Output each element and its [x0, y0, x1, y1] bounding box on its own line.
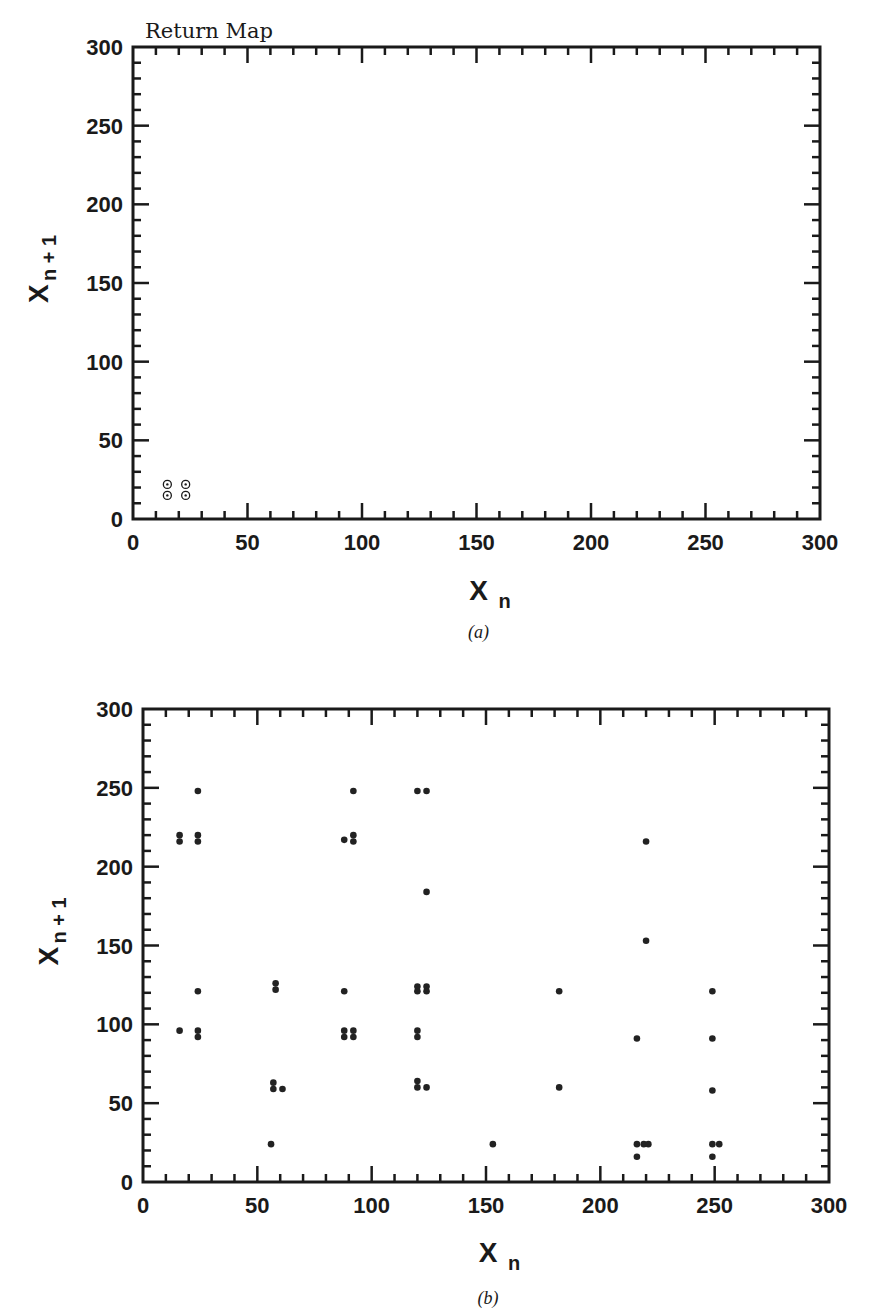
- y-tick-label: 0: [111, 507, 123, 532]
- x-axis-label-subscript: n: [508, 1252, 520, 1274]
- y-axis-label: Xn + 1: [33, 897, 70, 965]
- data-point: [423, 889, 430, 896]
- y-tick-label: 200: [96, 855, 133, 880]
- x-axis-label: X: [469, 575, 488, 606]
- plot-frame: [133, 47, 820, 519]
- x-tick-label: 0: [127, 530, 139, 555]
- data-point: [556, 988, 563, 995]
- x-tick-label: 0: [137, 1193, 149, 1218]
- data-point: [176, 838, 183, 845]
- data-point: [350, 788, 357, 795]
- y-tick-label: 300: [86, 35, 123, 60]
- data-point: [272, 980, 279, 987]
- data-point: [716, 1141, 723, 1148]
- x-tick-label: 100: [344, 530, 381, 555]
- y-tick-label: 50: [109, 1091, 133, 1116]
- y-tick-label: 50: [99, 428, 123, 453]
- y-tick-label: 100: [86, 350, 123, 375]
- x-tick-label: 50: [235, 530, 259, 555]
- data-point: [709, 1153, 716, 1160]
- y-tick-label: 300: [96, 697, 133, 722]
- data-point: [350, 838, 357, 845]
- data-point: [634, 1141, 641, 1148]
- data-point: [195, 1027, 202, 1034]
- data-point: [270, 1079, 277, 1086]
- data-point: [268, 1141, 275, 1148]
- figure-caption: (b): [478, 1288, 499, 1309]
- svg-text:n + 1: n + 1: [48, 897, 70, 943]
- data-point: [423, 988, 430, 995]
- data-point: [176, 832, 183, 839]
- data-points: [176, 788, 722, 1160]
- data-point: [709, 1087, 716, 1094]
- y-axis-label: Xn + 1: [23, 235, 60, 303]
- data-point: [350, 1034, 357, 1041]
- data-point: [341, 1027, 348, 1034]
- data-point: [709, 1141, 716, 1148]
- axis-ticks: [133, 47, 820, 519]
- data-point: [490, 1141, 497, 1148]
- svg-text:X: X: [33, 947, 64, 966]
- data-point: [176, 1027, 183, 1034]
- data-point: [272, 986, 279, 993]
- data-point: [350, 1027, 357, 1034]
- chart-title: Return Map: [145, 19, 273, 43]
- data-point: [195, 832, 202, 839]
- data-point: [643, 838, 650, 845]
- data-point: [709, 1035, 716, 1042]
- data-point: [414, 788, 421, 795]
- chart-panel-b: 050100150200250300050100150200250300XnXn…: [33, 697, 847, 1309]
- data-point: [414, 1084, 421, 1091]
- x-tick-label: 300: [811, 1193, 848, 1218]
- data-point: [414, 1078, 421, 1085]
- data-point: [195, 838, 202, 845]
- x-tick-label: 250: [687, 530, 724, 555]
- data-point: [414, 1034, 421, 1041]
- chart-panel-a: 050100150200250300050100150200250300XnXn…: [23, 19, 838, 643]
- data-point: [423, 1084, 430, 1091]
- x-tick-label: 150: [458, 530, 495, 555]
- data-point: [195, 988, 202, 995]
- y-tick-label: 250: [96, 776, 133, 801]
- data-point: [279, 1086, 286, 1093]
- plot-frame: [143, 709, 829, 1182]
- data-point: [195, 788, 202, 795]
- data-point: [556, 1084, 563, 1091]
- data-points: [163, 480, 189, 499]
- data-point: [643, 937, 650, 944]
- data-point: [634, 1035, 641, 1042]
- x-tick-label: 250: [696, 1193, 733, 1218]
- data-point: [195, 1034, 202, 1041]
- y-tick-label: 250: [86, 114, 123, 139]
- y-tick-label: 200: [86, 192, 123, 217]
- data-point: [341, 988, 348, 995]
- x-tick-label: 200: [582, 1193, 619, 1218]
- data-point: [341, 837, 348, 844]
- figure-caption: (a): [468, 622, 489, 643]
- data-point: [270, 1086, 277, 1093]
- x-tick-label: 300: [802, 530, 839, 555]
- x-tick-label: 150: [468, 1193, 505, 1218]
- data-point: [709, 988, 716, 995]
- y-tick-label: 0: [121, 1170, 133, 1195]
- y-tick-label: 100: [96, 1012, 133, 1037]
- data-point: [423, 788, 430, 795]
- data-point: [645, 1141, 652, 1148]
- x-axis-label: X: [479, 1237, 498, 1268]
- svg-text:X: X: [23, 284, 54, 303]
- x-axis-label-subscript: n: [499, 590, 511, 612]
- data-point: [634, 1153, 641, 1160]
- x-tick-label: 200: [573, 530, 610, 555]
- x-tick-label: 100: [353, 1193, 390, 1218]
- return-map-figure: 050100150200250300050100150200250300XnXn…: [0, 0, 869, 1312]
- axis-ticks: [143, 709, 829, 1182]
- data-point: [414, 988, 421, 995]
- x-tick-label: 50: [245, 1193, 269, 1218]
- data-point: [350, 832, 357, 839]
- data-point: [414, 1027, 421, 1034]
- y-tick-label: 150: [86, 271, 123, 296]
- data-point: [341, 1034, 348, 1041]
- y-tick-label: 150: [96, 934, 133, 959]
- svg-text:n + 1: n + 1: [38, 235, 60, 281]
